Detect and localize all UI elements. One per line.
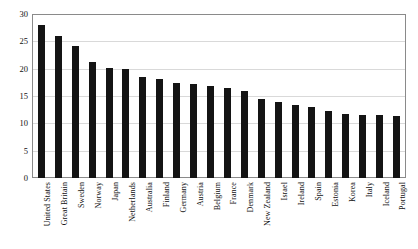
bar [106, 68, 113, 178]
bar-slot [50, 14, 67, 178]
bar [393, 116, 400, 178]
x-label-slot: Norway [84, 180, 101, 249]
bar [376, 115, 383, 178]
bar-slot [101, 14, 118, 178]
x-label-slot: Japan [101, 180, 118, 249]
bar [359, 115, 366, 178]
x-label-slot: France [219, 180, 236, 249]
bar-slot [371, 14, 388, 178]
bar-slot [168, 14, 185, 178]
y-tick-label: 0 [24, 174, 28, 183]
bar [207, 86, 214, 178]
bar-slot [270, 14, 287, 178]
bar-slot [304, 14, 321, 178]
bar-slot [253, 14, 270, 178]
bar [72, 46, 79, 178]
bar-slot [84, 14, 101, 178]
bar-slot [320, 14, 337, 178]
bar [55, 36, 62, 178]
bar [122, 69, 129, 178]
bar-slot [202, 14, 219, 178]
bar [342, 114, 349, 179]
x-label-slot: Denmark [236, 180, 253, 249]
bar [308, 107, 315, 178]
bar [325, 111, 332, 178]
bar-slot [337, 14, 354, 178]
y-tick-label: 5 [24, 146, 28, 155]
x-label-slot: Iceland [371, 180, 388, 249]
bar [173, 83, 180, 178]
x-label-slot: Spain [304, 180, 321, 249]
bar [292, 105, 299, 178]
x-label-slot: Austria [185, 180, 202, 249]
bar-chart: 051015202530 United StatesGreat BritainS… [0, 0, 418, 249]
x-label-slot: Portugal [388, 180, 405, 249]
x-axis-labels: United StatesGreat BritainSwedenNorwayJa… [33, 180, 405, 249]
bar [156, 79, 163, 178]
bar [38, 25, 45, 178]
bar-slot [134, 14, 151, 178]
y-tick-label: 15 [20, 92, 29, 101]
x-label-slot: Finland [151, 180, 168, 249]
bar [139, 77, 146, 178]
y-tick-label: 25 [20, 37, 29, 46]
y-tick-label: 10 [20, 119, 29, 128]
bar-slot [388, 14, 405, 178]
x-label-slot: United States [33, 180, 50, 249]
bar-slot [33, 14, 50, 178]
bar [241, 91, 248, 178]
bar [224, 88, 231, 178]
x-label-slot: Korea [337, 180, 354, 249]
x-label-slot: New Zealand [253, 180, 270, 249]
x-label-slot: Belgium [202, 180, 219, 249]
y-tick-label: 30 [20, 10, 29, 19]
bar-slot [185, 14, 202, 178]
y-tick-label: 20 [20, 64, 29, 73]
bar [275, 102, 282, 178]
bar-slot [287, 14, 304, 178]
bar-slot [219, 14, 236, 178]
x-label-slot: Israel [270, 180, 287, 249]
bar [190, 84, 197, 178]
bar-slot [354, 14, 371, 178]
x-label-slot: Netherlands [118, 180, 135, 249]
bar [258, 99, 265, 178]
x-tick-label: Portugal [399, 182, 407, 210]
x-label-slot: Germany [168, 180, 185, 249]
bar-series [33, 14, 405, 178]
bar [89, 62, 96, 178]
x-label-slot: Australia [134, 180, 151, 249]
x-label-slot: Italy [354, 180, 371, 249]
bar-slot [236, 14, 253, 178]
y-axis: 051015202530 [0, 0, 32, 180]
bar-slot [67, 14, 84, 178]
x-label-slot: Great Britain [50, 180, 67, 249]
bar-slot [151, 14, 168, 178]
x-label-slot: Sweden [67, 180, 84, 249]
x-label-slot: Estonia [320, 180, 337, 249]
bar-slot [118, 14, 135, 178]
x-label-slot: Ireland [287, 180, 304, 249]
